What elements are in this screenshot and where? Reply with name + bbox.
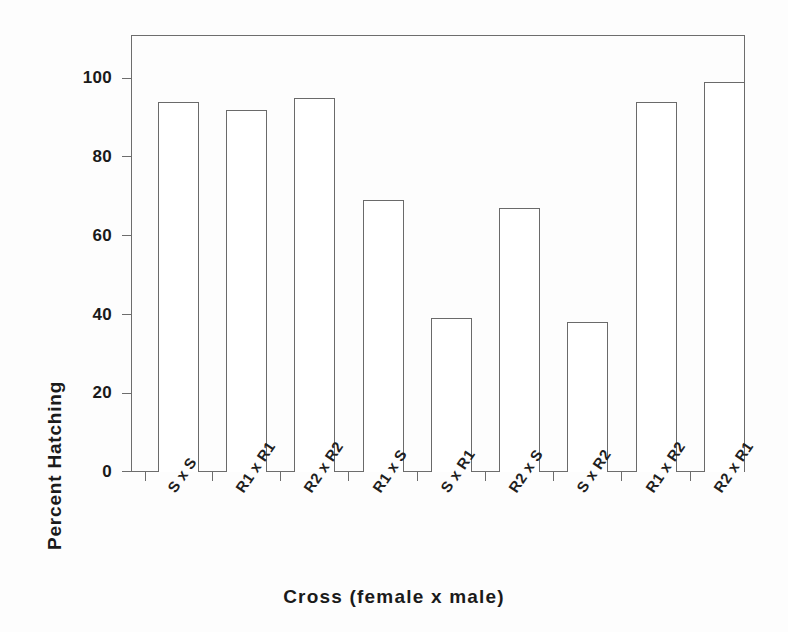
y-axis-tick-label: 60 xyxy=(66,227,112,244)
bar xyxy=(704,82,745,472)
y-axis-tick-label: 20 xyxy=(66,384,112,401)
chart-page: Percent Hatching 020406080100 S x SR1 x … xyxy=(0,0,788,632)
x-axis-tick xyxy=(690,472,691,481)
x-axis-tick xyxy=(621,472,622,481)
bar xyxy=(363,200,404,472)
x-axis-tick xyxy=(145,472,146,481)
y-axis-tick xyxy=(122,314,131,315)
x-axis-title: Cross (female x male) xyxy=(0,586,788,608)
y-axis-tick xyxy=(122,471,131,472)
y-axis-title-container: Percent Hatching xyxy=(30,160,56,400)
x-axis-tick xyxy=(212,472,213,481)
x-axis-tick xyxy=(348,472,349,481)
y-axis-tick-label: 100 xyxy=(66,69,112,86)
y-axis-tick xyxy=(122,235,131,236)
x-axis-tick xyxy=(417,472,418,481)
bar xyxy=(158,102,199,472)
bar xyxy=(226,110,267,472)
y-axis-tick xyxy=(122,393,131,394)
bar xyxy=(294,98,335,472)
x-axis-tick xyxy=(280,472,281,481)
y-axis-tick-label: 80 xyxy=(66,148,112,165)
x-axis-tick xyxy=(485,472,486,481)
bars-layer xyxy=(131,35,745,472)
y-axis-tick xyxy=(122,156,131,157)
y-axis-tick-label: 40 xyxy=(66,306,112,323)
bar xyxy=(636,102,677,472)
x-axis-tick xyxy=(553,472,554,481)
bar xyxy=(499,208,540,472)
y-axis-tick-label: 0 xyxy=(66,463,112,480)
y-axis-tick xyxy=(122,78,131,79)
y-axis-title: Percent Hatching xyxy=(44,330,66,550)
